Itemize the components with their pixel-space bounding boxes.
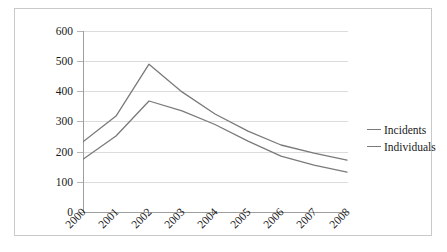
series-line-individuals [83, 101, 347, 172]
legend-line-icon-individuals [367, 146, 381, 147]
legend-line-icon-incidents [367, 129, 381, 130]
legend-label-incidents: Incidents [384, 124, 426, 136]
series-line-incidents [83, 64, 347, 160]
legend-item-incidents: Incidents [367, 121, 445, 138]
y-axis-label-500: 500 [33, 55, 73, 67]
chart-figure: 600 500 400 300 200 100 0 2000 2001 2002… [0, 0, 447, 252]
y-axis-label-300: 300 [33, 115, 73, 127]
figure-frame: 600 500 400 300 200 100 0 2000 2001 2002… [14, 8, 432, 236]
chart-legend: Incidents Individuals [367, 121, 445, 155]
y-axis-label-100: 100 [33, 176, 73, 188]
legend-item-individuals: Individuals [367, 138, 445, 155]
y-axis-label-200: 200 [33, 146, 73, 158]
legend-label-individuals: Individuals [384, 141, 436, 153]
series-plot-area [83, 31, 348, 213]
y-axis-label-600: 600 [33, 25, 73, 37]
y-axis-label-400: 400 [33, 85, 73, 97]
